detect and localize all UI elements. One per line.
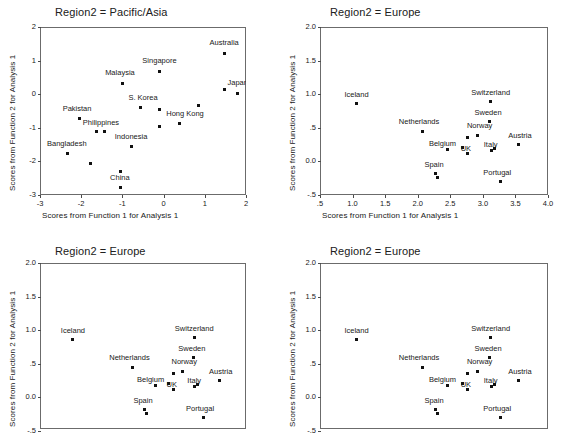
point-label: Switzerland xyxy=(471,324,510,333)
data-point xyxy=(476,370,479,373)
y-tick-label: 2.0 xyxy=(294,258,316,267)
point-label: Sweden xyxy=(475,344,502,353)
point-label: Spain xyxy=(424,396,443,405)
point-label: Belgium xyxy=(429,375,456,384)
data-point xyxy=(421,366,424,369)
data-point xyxy=(499,416,502,419)
data-point xyxy=(355,338,358,341)
data-point xyxy=(489,336,492,339)
plot-area: IcelandSwitzerlandSwedenNetherlandsNorwa… xyxy=(320,263,548,429)
panel-title: Region2 = Europe xyxy=(330,245,421,257)
data-point xyxy=(434,408,437,411)
point-label: Austria xyxy=(508,367,531,376)
point-label: Netherlands xyxy=(399,353,439,362)
point-label: Norway xyxy=(467,357,492,366)
data-point xyxy=(493,383,496,386)
y-tick-label: 1.0 xyxy=(294,325,316,334)
data-point xyxy=(466,372,469,375)
data-point xyxy=(436,412,439,415)
y-tick-label: -.5 xyxy=(294,426,316,435)
data-point xyxy=(466,388,469,391)
y-tick-label: 0.0 xyxy=(294,392,316,401)
data-point xyxy=(517,379,520,382)
point-label: Portugal xyxy=(483,404,511,413)
y-axis-label: Scores from Function 2 for Analysis 1 xyxy=(288,291,297,427)
y-tick-label: .5 xyxy=(294,359,316,368)
data-point xyxy=(446,384,449,387)
y-tick-mark xyxy=(318,431,321,432)
point-label: Iceland xyxy=(344,326,368,335)
y-tick-label: 1.5 xyxy=(294,292,316,301)
